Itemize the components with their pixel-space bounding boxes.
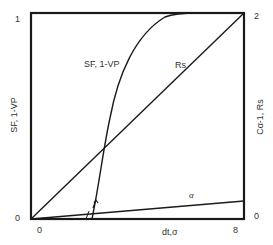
- y-right-axis-label: Cα-1, Rs: [255, 95, 265, 139]
- y-left-axis-label: SF, 1-VP: [9, 95, 19, 135]
- rs-curve-label: Rs: [175, 60, 186, 70]
- y-left-tick-1: 1: [15, 14, 20, 24]
- x-axis-label: dt,σ: [162, 227, 178, 237]
- sf-curve: [92, 13, 198, 219]
- sf-curve-label: SF, 1-VP: [84, 59, 120, 69]
- alpha-curve-label: α: [189, 190, 194, 200]
- y-right-tick-2: 2: [254, 11, 259, 21]
- chart-canvas: [0, 0, 273, 245]
- x-tick-0: 0: [37, 225, 42, 235]
- y-right-tick-0: 0: [254, 211, 259, 221]
- x-tick-8: 8: [233, 225, 238, 235]
- y-left-tick-0: 0: [15, 213, 20, 223]
- alpha-line: [31, 201, 244, 219]
